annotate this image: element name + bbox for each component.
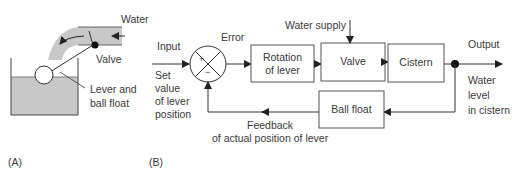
valve-label: Valve (96, 52, 122, 66)
valve-block-label: Valve (321, 55, 385, 68)
water-level-label-1: Water (468, 73, 496, 87)
error-label: Error (221, 30, 244, 44)
rotation-block-label: Rotation of lever (251, 51, 314, 77)
water-supply-label: Water supply (285, 18, 346, 32)
set-value-label-1: Set (155, 68, 171, 82)
water-level-label-2: level (468, 88, 490, 102)
feedback-label-1: Feedback (247, 118, 293, 132)
water-level-label-3: in cistern (468, 103, 510, 117)
feedback-label-2: of actual position of lever (212, 131, 328, 145)
water-label: Water (121, 12, 149, 26)
set-value-label-2: value (155, 81, 180, 95)
cistern-block-label: Cistern (388, 56, 444, 69)
panel-b-label: (B) (149, 155, 163, 169)
output-label: Output (468, 37, 500, 51)
panel-a-label: (A) (8, 155, 22, 169)
lever-label-2: ball float (90, 96, 129, 110)
set-value-label-3: of lever (155, 94, 189, 108)
set-value-label-4: position (155, 107, 191, 121)
minus-sign: − (205, 65, 210, 79)
lever-label-1: Lever and (90, 82, 137, 96)
input-label: Input (157, 39, 180, 53)
diagram-canvas (0, 0, 522, 179)
plus-sign: + (199, 52, 204, 66)
ball-float-block-label: Ball float (319, 103, 384, 116)
